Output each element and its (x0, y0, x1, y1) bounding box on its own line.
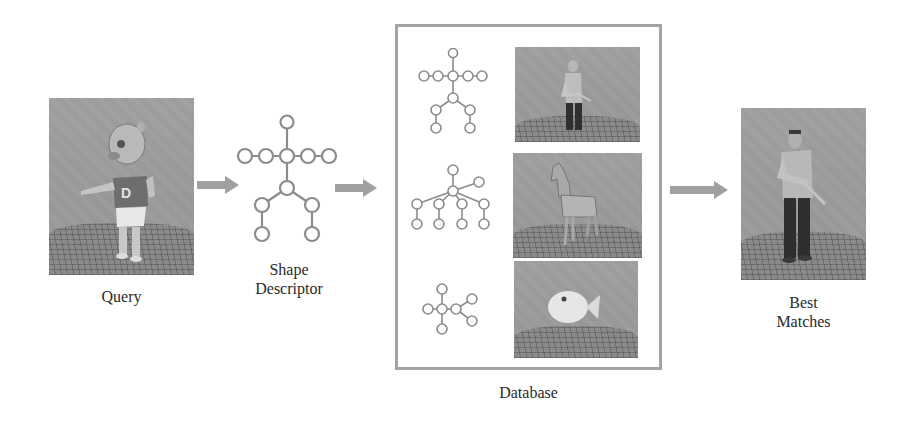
shape-label-line1: Shape (236, 260, 342, 279)
database-label: Database (395, 383, 662, 402)
human-figure (741, 108, 866, 280)
shape-descriptor-label: Shape Descriptor (236, 260, 342, 298)
shape-descriptor-graph (236, 114, 342, 250)
shape-label-line2: Descriptor (236, 279, 342, 298)
database-image-human (515, 47, 640, 142)
arrow-right-icon (335, 178, 379, 198)
database-graph-humanoid (418, 48, 490, 138)
best-matches-label: Best Matches (741, 293, 866, 331)
human-figure (515, 47, 640, 142)
horse-figure (513, 153, 642, 258)
query-label: Query (49, 287, 194, 306)
best-match-image (741, 108, 866, 280)
best-label-line1: Best (741, 293, 866, 312)
cartoon-character-figure: D (49, 98, 194, 275)
database-graph-quadruped (408, 164, 490, 240)
arrow-right-icon (670, 180, 730, 200)
best-label-line2: Matches (741, 312, 866, 331)
arrow-right-icon (197, 175, 241, 195)
database-image-fish (514, 261, 638, 358)
query-image: D (49, 98, 194, 275)
database-graph-fish (422, 283, 488, 337)
fish-figure (514, 261, 638, 358)
svg-text:D: D (121, 185, 131, 201)
database-image-horse (513, 153, 642, 258)
